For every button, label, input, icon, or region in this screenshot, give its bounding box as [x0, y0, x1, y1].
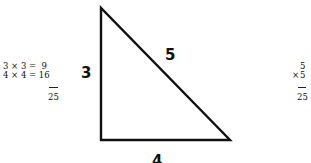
multiplier: 5	[300, 71, 305, 80]
product-result: 25	[297, 93, 308, 102]
side-label-hypotenuse: 5	[165, 48, 175, 63]
triangle-shape	[101, 8, 230, 140]
side-label-vertical: 3	[81, 66, 91, 81]
right-triangle-diagram	[0, 0, 311, 163]
side-label-base: 4	[152, 154, 162, 163]
product-bar	[298, 87, 306, 88]
multiplier-sign: ×	[292, 71, 299, 80]
